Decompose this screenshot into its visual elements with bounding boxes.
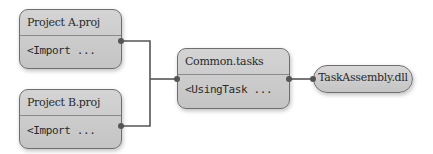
port-dot-icon [118,38,124,44]
port-dot-icon [310,76,316,82]
port-dot-icon [118,123,124,129]
port-dot-icon [174,76,180,82]
port-dot-icon [286,76,292,82]
connector-dots [0,0,433,154]
